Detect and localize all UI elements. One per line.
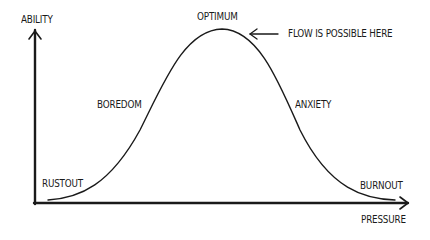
x-axis-label: PRESSURE	[361, 215, 406, 225]
y-axis-label: ABILITY	[21, 15, 53, 25]
flow-arrow-icon	[250, 29, 278, 39]
optimum-label: OPTIMUM	[197, 12, 238, 22]
boredom-label: BOREDOM	[97, 100, 142, 110]
x-axis	[34, 197, 408, 209]
rustout-label: RUSTOUT	[42, 179, 83, 189]
y-axis	[29, 30, 41, 204]
performance-curve	[48, 29, 395, 200]
anxiety-label: ANXIETY	[295, 100, 331, 110]
burnout-label: BURNOUT	[360, 181, 403, 191]
flow-annotation-label: FLOW IS POSSIBLE HERE	[288, 29, 393, 39]
